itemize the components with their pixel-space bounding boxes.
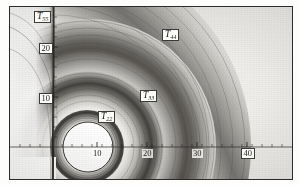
left-lower-white [10,157,56,179]
x-tick-label-30: 30 [192,149,203,158]
annotation-label-t44: T44 [162,29,179,41]
y-tick-label-20: 20 [39,43,53,54]
x-tick-label-40: 40 [241,148,255,159]
annotation-t22-sub: 22 [106,115,112,122]
annotation-t55-sub: 55 [42,15,48,22]
annotation-t33-sub: 33 [148,94,154,101]
figure-container: T55 T44 T33 T22 20 10 10 20 30 40 [0,0,299,185]
x-tick-label-10: 10 [92,149,103,158]
plot-frame: T55 T44 T33 T22 20 10 10 20 30 40 [9,6,293,180]
branch-cut-line [53,7,54,179]
annotation-label-t55: T55 [34,11,51,23]
x-tick-label-20: 20 [142,149,153,158]
annotation-t44-sub: 44 [170,33,176,40]
annotation-label-t22: T22 [98,111,115,123]
y-tick-label-10: 10 [39,93,53,104]
annotation-label-t33: T33 [140,90,157,102]
